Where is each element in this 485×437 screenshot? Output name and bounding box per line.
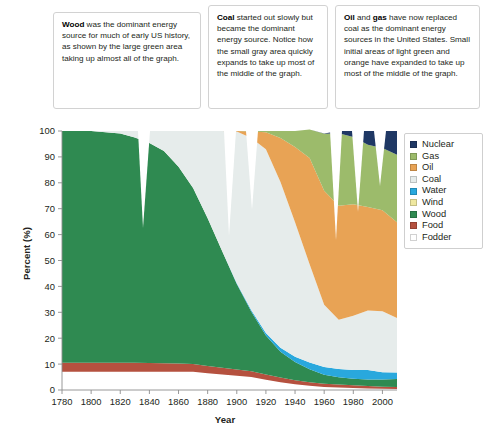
callout-oil-keyword: Oil	[344, 13, 355, 22]
legend-label-wind: Wind	[422, 197, 443, 209]
legend-label-gas: Gas	[422, 151, 439, 163]
legend-label-fodder: Fodder	[422, 232, 451, 244]
legend-swatch-nuclear	[410, 141, 417, 148]
legend-label-oil: Oil	[422, 162, 433, 174]
legend-item-food: Food	[410, 220, 478, 232]
callout-oil: Oil and gas have now replaced coal as th…	[335, 5, 480, 109]
legend-label-water: Water	[422, 185, 446, 197]
x-tick-label: 1920	[255, 396, 276, 407]
y-tick-label: 0	[50, 384, 55, 395]
legend-item-coal: Coal	[410, 174, 478, 186]
callout-coal-keyword: Coal	[217, 13, 235, 22]
legend-item-fodder: Fodder	[410, 232, 478, 244]
y-tick-label: 80	[45, 177, 55, 188]
x-tick-label: 1960	[314, 396, 335, 407]
y-tick-label: 60	[45, 229, 55, 240]
x-tick-label: 1940	[285, 396, 306, 407]
x-tick-label: 1780	[52, 396, 73, 407]
y-tick-label: 10	[45, 359, 55, 370]
callout-coal-text: started out slowly but became the domina…	[217, 13, 314, 78]
y-tick-label: 40	[45, 281, 55, 292]
legend-item-water: Water	[410, 185, 478, 197]
callout-oil-keyword2: gas	[373, 13, 387, 22]
y-axis-title: Percent (%)	[21, 209, 32, 299]
legend-swatch-food	[410, 222, 417, 229]
x-tick-label: 1840	[139, 396, 160, 407]
chart-legend: NuclearGasOilCoalWaterWindWoodFoodFodder	[404, 133, 483, 249]
x-axis-title: Year	[170, 414, 280, 425]
callout-wood-keyword: Wood	[62, 20, 84, 29]
legend-label-nuclear: Nuclear	[422, 139, 454, 151]
legend-label-coal: Coal	[422, 174, 441, 186]
callout-wood: Wood was the dominant energy source for …	[53, 12, 201, 109]
y-tick-label: 90	[45, 151, 55, 162]
x-tick-label: 1860	[168, 396, 189, 407]
energy-sources-stacked-area-figure: 0102030405060708090100178018001820184018…	[0, 0, 485, 437]
legend-item-wood: Wood	[410, 209, 478, 221]
callout-oil-text-mid: and	[355, 13, 373, 22]
callout-coal: Coal started out slowly but became the d…	[208, 5, 328, 109]
legend-item-nuclear: Nuclear	[410, 139, 478, 151]
x-axis-ticks: 1780180018201840186018801900192019401960…	[52, 390, 393, 407]
legend-item-wind: Wind	[410, 197, 478, 209]
legend-swatch-gas	[410, 153, 417, 160]
y-tick-label: 20	[45, 333, 55, 344]
legend-swatch-water	[410, 188, 417, 195]
x-tick-label: 2000	[372, 396, 393, 407]
y-axis-ticks: 0102030405060708090100	[39, 125, 62, 395]
x-tick-label: 1900	[226, 396, 247, 407]
y-tick-label: 100	[39, 125, 55, 136]
x-tick-label: 1800	[81, 396, 102, 407]
legend-swatch-wood	[410, 211, 417, 218]
y-tick-label: 50	[45, 255, 55, 266]
y-tick-label: 70	[45, 203, 55, 214]
x-tick-label: 1880	[197, 396, 218, 407]
legend-swatch-oil	[410, 164, 417, 171]
legend-label-food: Food	[422, 220, 443, 232]
x-tick-label: 1820	[110, 396, 131, 407]
legend-swatch-wind	[410, 199, 417, 206]
y-tick-label: 30	[45, 307, 55, 318]
legend-label-wood: Wood	[422, 209, 446, 221]
callout-oil-text: have now replaced coal as the dominant e…	[344, 13, 470, 78]
legend-item-gas: Gas	[410, 151, 478, 163]
legend-swatch-coal	[410, 176, 417, 183]
legend-swatch-fodder	[410, 234, 417, 241]
x-tick-label: 1980	[343, 396, 364, 407]
legend-item-oil: Oil	[410, 162, 478, 174]
